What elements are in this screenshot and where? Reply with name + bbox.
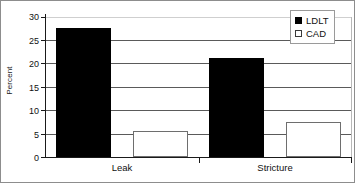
legend-item-cad: CAD <box>295 27 329 40</box>
legend-item-ldlt: LDLT <box>295 14 329 27</box>
chart-legend: LDLTCAD <box>290 10 335 44</box>
y-tick-label-5: 5 <box>34 131 39 140</box>
bar-leak-cad <box>133 131 188 157</box>
x-axis-line <box>45 157 352 158</box>
bar-stricture-ldlt <box>209 58 264 157</box>
legend-swatch-icon-cad <box>295 30 302 37</box>
legend-label-cad: CAD <box>306 29 326 39</box>
y-axis-line <box>45 14 46 158</box>
y-tick-label-20: 20 <box>29 60 39 69</box>
y-axis-title-label: Percent <box>5 66 14 94</box>
y-tick-label-30: 30 <box>29 13 39 22</box>
bar-stricture-cad <box>286 122 341 157</box>
y-tick-label-10: 10 <box>29 107 39 116</box>
x-axis-label-leak: Leak <box>112 162 133 173</box>
bar-chart: Percent 051015202530 LeakStricture LDLTC… <box>0 0 356 184</box>
legend-swatch-icon-ldlt <box>295 17 302 24</box>
x-axis-category-labels: LeakStricture <box>45 162 352 182</box>
y-tick-label-0: 0 <box>34 154 39 163</box>
y-tick-label-25: 25 <box>29 37 39 46</box>
y-axis-tick-labels: 051015202530 <box>17 11 41 159</box>
plot-right-edge <box>351 17 352 158</box>
x-axis-label-stricture: Stricture <box>257 162 292 173</box>
y-axis-title: Percent <box>1 0 17 160</box>
legend-label-ldlt: LDLT <box>306 16 329 26</box>
y-tick-label-15: 15 <box>29 84 39 93</box>
bar-leak-ldlt <box>56 28 111 157</box>
